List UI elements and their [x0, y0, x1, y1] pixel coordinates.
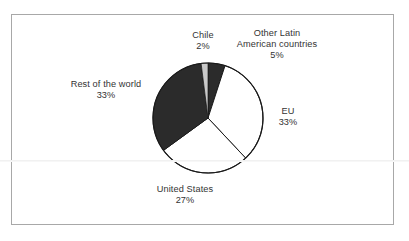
slice-label-eu-name: EU: [282, 106, 295, 116]
slice-label-rest-of-the-world-name: Rest of the world: [71, 79, 142, 89]
slice-label-united-states-percent: 27%: [133, 195, 237, 206]
pie-chart-figure: Chile 2% Other Latin American countries …: [0, 0, 409, 241]
slice-label-united-states-name: United States: [157, 184, 213, 194]
slice-label-eu: EU 33%: [268, 106, 308, 128]
slice-label-rest-of-the-world-percent: 33%: [50, 90, 162, 101]
slice-label-united-states: United States 27%: [133, 184, 237, 206]
slice-label-eu-percent: 33%: [268, 117, 308, 128]
slice-label-other-latin-american-countries: Other Latin American countries 5%: [222, 28, 332, 62]
slice-label-chile-name: Chile: [192, 30, 213, 40]
slice-label-other-latin-line-2: American countries: [222, 39, 332, 50]
slice-label-rest-of-the-world: Rest of the world 33%: [50, 79, 162, 101]
slice-label-other-latin-line-1: Other Latin: [254, 28, 301, 38]
slice-label-other-latin-percent: 5%: [222, 50, 332, 61]
scan-artifact-line-secondary: [0, 161, 409, 162]
